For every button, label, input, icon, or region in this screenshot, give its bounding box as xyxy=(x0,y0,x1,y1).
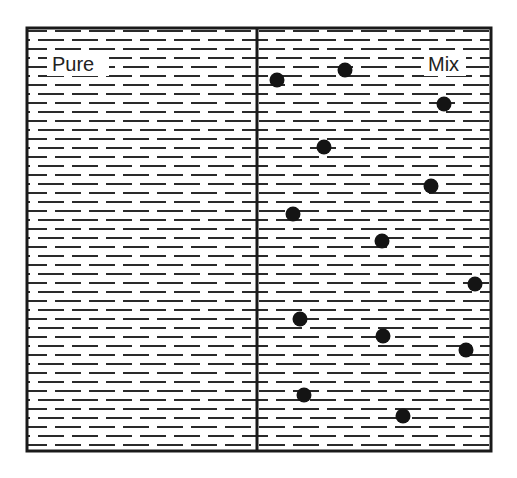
mix-fill xyxy=(257,28,491,451)
particle-dot xyxy=(424,179,439,194)
mix-label: Mix xyxy=(428,53,459,75)
particle-dot xyxy=(293,312,308,327)
particle-dot xyxy=(468,277,483,292)
particle-dot xyxy=(376,329,391,344)
particle-dot xyxy=(459,343,474,358)
pure-fill xyxy=(27,28,257,451)
panel-mix: Mix xyxy=(257,28,491,451)
pure-vs-mix-diagram: Pure Mix xyxy=(0,0,517,478)
particle-dot xyxy=(286,207,301,222)
panel-pure: Pure xyxy=(27,28,257,451)
pure-label: Pure xyxy=(52,53,94,75)
particle-dot xyxy=(375,234,390,249)
particle-dot xyxy=(297,388,312,403)
particle-dot xyxy=(270,73,285,88)
particle-dot xyxy=(317,140,332,155)
particle-dot xyxy=(338,63,353,78)
particle-dot xyxy=(396,409,411,424)
particle-dot xyxy=(437,97,452,112)
